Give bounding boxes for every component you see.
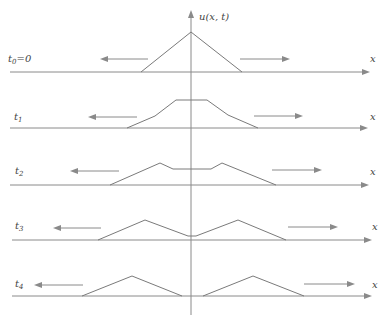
x-axis-arrowhead-icon xyxy=(364,293,372,299)
wave-profile xyxy=(98,220,286,240)
x-axis-arrowhead-icon xyxy=(362,69,370,75)
wave-profile xyxy=(127,100,258,128)
time-row-0: xt0=0 xyxy=(8,32,376,75)
time-row-4: xt4 xyxy=(12,276,378,299)
right-arrow-icon xyxy=(330,224,338,230)
left-arrow-icon xyxy=(88,114,96,120)
time-row-3: xt3 xyxy=(12,220,378,243)
left-arrow-icon xyxy=(70,168,78,174)
left-arrow-icon xyxy=(100,56,108,62)
time-label: t0=0 xyxy=(8,53,32,66)
x-axis-arrowhead-icon xyxy=(364,237,372,243)
time-row-2: xt2 xyxy=(10,163,376,188)
vertical-axis-arrowhead-icon xyxy=(188,10,194,18)
x-axis-label: x xyxy=(372,279,378,290)
time-label: t3 xyxy=(15,220,24,233)
wave-profile-right xyxy=(203,276,304,296)
time-row-1: xt1 xyxy=(10,100,376,131)
x-axis-label: x xyxy=(370,166,376,177)
right-arrow-icon xyxy=(282,56,290,62)
vertical-axis-u xyxy=(188,10,194,315)
wave-profile xyxy=(110,163,276,185)
x-axis-label: x xyxy=(370,111,376,122)
right-arrow-icon xyxy=(314,167,322,173)
wave-splitting-diagram: u(x, t) xt0=0xt1xt2xt3xt4 xyxy=(0,0,386,322)
time-label: t1 xyxy=(14,111,23,124)
x-axis-arrowhead-icon xyxy=(361,182,369,188)
x-axis-arrowhead-icon xyxy=(360,125,368,131)
right-arrow-icon xyxy=(347,281,355,287)
left-arrow-icon xyxy=(53,225,61,231)
vertical-axis-label: u(x, t) xyxy=(199,11,229,22)
wave-profile-left xyxy=(82,276,182,296)
time-label: t2 xyxy=(15,165,24,178)
time-label: t4 xyxy=(15,278,24,291)
x-axis-label: x xyxy=(372,221,378,232)
time-rows: xt0=0xt1xt2xt3xt4 xyxy=(8,32,378,299)
x-axis-label: x xyxy=(370,53,376,64)
left-arrow-icon xyxy=(34,282,42,288)
right-arrow-icon xyxy=(295,113,303,119)
